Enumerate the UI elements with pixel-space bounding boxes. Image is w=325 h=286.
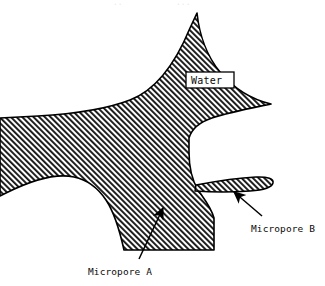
top-cropped-fragment-left: .. (113, 0, 123, 7)
micropore-b-label: Micropore B (251, 223, 315, 234)
pore-diagram: Micropore A Micropore B Water .. ... (0, 0, 325, 286)
water-label-group: Water (186, 72, 234, 88)
top-cropped-fragment-right: ... (176, 0, 190, 7)
water-label: Water (191, 75, 222, 86)
figure-container: Micropore A Micropore B Water .. ... (0, 0, 325, 286)
micropore-a-label: Micropore A (88, 266, 152, 277)
